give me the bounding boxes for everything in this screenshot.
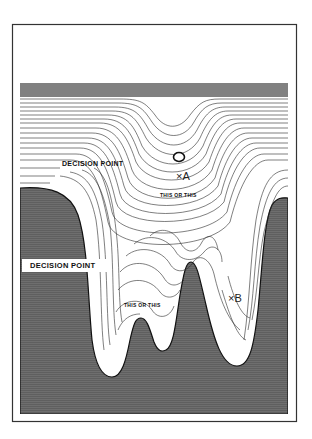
point-b-marker: ×B (228, 292, 242, 304)
top-contour-band (20, 83, 288, 97)
epigenetic-landscape-figure: DECISION POINT DECISION POINT THIS OR TH… (0, 0, 312, 439)
ball-marker-icon (174, 153, 185, 162)
point-a-marker: ×A (176, 170, 190, 182)
this-or-this-label-lower: THIS OR THIS (124, 302, 161, 308)
this-or-this-label-upper: THIS OR THIS (160, 192, 197, 198)
decision-point-label-upper: DECISION POINT (62, 160, 123, 167)
decision-point-label-lower: DECISION POINT (22, 259, 109, 272)
landscape-svg (0, 0, 312, 439)
